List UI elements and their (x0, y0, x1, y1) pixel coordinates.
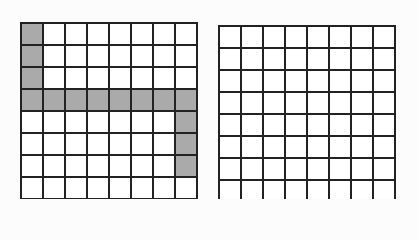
grid-cell[interactable] (88, 46, 108, 66)
grid-cell[interactable] (374, 93, 394, 113)
grid-cell[interactable] (330, 93, 350, 113)
grid-cell[interactable] (374, 71, 394, 91)
grid-cell[interactable] (132, 178, 152, 198)
grid-cell[interactable] (154, 178, 174, 198)
grid-cell[interactable] (176, 112, 196, 132)
grid-cell[interactable] (132, 24, 152, 44)
grid-cell[interactable] (330, 181, 350, 199)
grid-cell[interactable] (242, 115, 262, 135)
grid-cell[interactable] (330, 115, 350, 135)
grid-cell[interactable] (286, 27, 306, 47)
grid-cell[interactable] (220, 137, 240, 157)
grid-cell[interactable] (22, 24, 42, 44)
grid-cell[interactable] (154, 112, 174, 132)
grid-cell[interactable] (308, 137, 328, 157)
grid-cell[interactable] (44, 24, 64, 44)
grid-cell[interactable] (374, 137, 394, 157)
grid-cell[interactable] (352, 93, 372, 113)
grid-cell[interactable] (286, 115, 306, 135)
grid-cell[interactable] (264, 181, 284, 199)
grid-cell[interactable] (88, 90, 108, 110)
grid-cell[interactable] (88, 134, 108, 154)
grid-cell[interactable] (88, 68, 108, 88)
grid-cell[interactable] (66, 178, 86, 198)
grid-cell[interactable] (220, 159, 240, 179)
grid-cell[interactable] (374, 49, 394, 69)
grid-cell[interactable] (242, 27, 262, 47)
grid-cell[interactable] (308, 27, 328, 47)
grid-cell[interactable] (110, 68, 130, 88)
grid-cell[interactable] (286, 181, 306, 199)
grid-cell[interactable] (308, 71, 328, 91)
grid-cell[interactable] (352, 27, 372, 47)
grid-cell[interactable] (242, 137, 262, 157)
grid-cell[interactable] (66, 112, 86, 132)
grid-cell[interactable] (220, 27, 240, 47)
grid-cell[interactable] (88, 112, 108, 132)
grid-cell[interactable] (242, 159, 262, 179)
grid-cell[interactable] (110, 24, 130, 44)
grid-cell[interactable] (154, 134, 174, 154)
grid-cell[interactable] (132, 134, 152, 154)
grid-cell[interactable] (176, 24, 196, 44)
grid-cell[interactable] (132, 112, 152, 132)
grid-cell[interactable] (308, 159, 328, 179)
grid-cell[interactable] (88, 156, 108, 176)
grid-cell[interactable] (374, 27, 394, 47)
grid-cell[interactable] (242, 49, 262, 69)
grid-cell[interactable] (66, 46, 86, 66)
grid-cell[interactable] (286, 49, 306, 69)
grid-cell[interactable] (22, 134, 42, 154)
grid-cell[interactable] (308, 115, 328, 135)
grid-cell[interactable] (132, 156, 152, 176)
grid-cell[interactable] (44, 68, 64, 88)
grid-cell[interactable] (330, 159, 350, 179)
grid-cell[interactable] (176, 46, 196, 66)
grid-cell[interactable] (374, 115, 394, 135)
grid-cell[interactable] (176, 90, 196, 110)
grid-cell[interactable] (352, 71, 372, 91)
grid-cell[interactable] (66, 90, 86, 110)
grid-cell[interactable] (110, 46, 130, 66)
grid-cell[interactable] (176, 68, 196, 88)
grid-cell[interactable] (220, 93, 240, 113)
grid-cell[interactable] (66, 156, 86, 176)
grid-cell[interactable] (242, 71, 262, 91)
grid-cell[interactable] (242, 93, 262, 113)
grid-cell[interactable] (286, 159, 306, 179)
grid-cell[interactable] (110, 90, 130, 110)
grid-cell[interactable] (44, 46, 64, 66)
grid-cell[interactable] (264, 93, 284, 113)
grid-cell[interactable] (176, 178, 196, 198)
grid-cell[interactable] (22, 112, 42, 132)
grid-cell[interactable] (154, 68, 174, 88)
grid-cell[interactable] (374, 159, 394, 179)
grid-cell[interactable] (110, 112, 130, 132)
grid-cell[interactable] (110, 156, 130, 176)
grid-cell[interactable] (22, 90, 42, 110)
grid-cell[interactable] (132, 68, 152, 88)
left-grid[interactable] (20, 22, 198, 199)
grid-cell[interactable] (264, 137, 284, 157)
grid-cell[interactable] (286, 71, 306, 91)
grid-cell[interactable] (352, 137, 372, 157)
grid-cell[interactable] (264, 49, 284, 69)
grid-cell[interactable] (154, 24, 174, 44)
grid-cell[interactable] (88, 24, 108, 44)
grid-cell[interactable] (132, 46, 152, 66)
grid-cell[interactable] (308, 93, 328, 113)
grid-cell[interactable] (220, 49, 240, 69)
grid-cell[interactable] (352, 49, 372, 69)
right-grid[interactable] (218, 25, 396, 199)
grid-cell[interactable] (176, 156, 196, 176)
grid-cell[interactable] (264, 115, 284, 135)
grid-cell[interactable] (44, 178, 64, 198)
grid-cell[interactable] (22, 178, 42, 198)
grid-cell[interactable] (44, 134, 64, 154)
grid-cell[interactable] (286, 93, 306, 113)
grid-cell[interactable] (154, 46, 174, 66)
grid-cell[interactable] (44, 156, 64, 176)
grid-cell[interactable] (352, 181, 372, 199)
grid-cell[interactable] (330, 49, 350, 69)
grid-cell[interactable] (330, 71, 350, 91)
